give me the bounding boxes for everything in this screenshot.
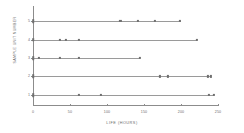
x-tick-label: 50: [68, 110, 72, 114]
data-point-marker: [137, 20, 139, 22]
series-start-marker: [32, 19, 34, 23]
x-tick-minor: [100, 105, 101, 106]
x-tick-major: [144, 104, 145, 106]
x-tick-label: 200: [178, 110, 185, 114]
data-point-marker: [59, 57, 61, 59]
x-axis-label: LIFE (HOURS): [0, 121, 244, 125]
data-point-marker: [212, 94, 214, 96]
x-tick-minor: [114, 105, 115, 106]
x-tick-minor: [174, 105, 175, 106]
y-axis-label: SAMPLE UNIT NUMBER: [13, 0, 17, 85]
series-line: [33, 76, 211, 77]
data-point-marker: [100, 94, 102, 96]
y-tick-label: 5: [25, 19, 30, 23]
y-tick-label: 1: [25, 93, 30, 97]
data-point-marker: [159, 75, 161, 77]
x-tick-minor: [85, 105, 86, 106]
x-tick-major: [107, 104, 108, 106]
data-point-marker: [208, 94, 210, 96]
x-tick-major: [33, 104, 34, 106]
series-line: [33, 95, 214, 96]
data-point-marker: [59, 38, 61, 40]
data-point-marker: [167, 75, 169, 77]
y-tick-label: 4: [25, 38, 30, 42]
y-tick-label: 3: [25, 56, 30, 60]
x-tick-minor: [137, 105, 138, 106]
x-tick-minor: [92, 105, 93, 106]
x-tick-minor: [196, 105, 197, 106]
x-tick-minor: [151, 105, 152, 106]
data-point-marker: [210, 75, 212, 77]
data-point-marker: [38, 57, 40, 59]
x-tick-label: 250: [215, 110, 222, 114]
x-tick-minor: [122, 105, 123, 106]
x-tick-minor: [211, 105, 212, 106]
series-start-marker: [32, 75, 34, 79]
x-tick-label: 150: [141, 110, 148, 114]
x-tick-major: [181, 104, 182, 106]
plot-area: 050100150200250 12345: [33, 10, 218, 106]
data-point-marker: [154, 20, 156, 22]
x-tick-minor: [77, 105, 78, 106]
data-point-marker: [78, 57, 80, 59]
data-point-marker: [196, 38, 198, 40]
x-tick-major: [70, 104, 71, 106]
x-tick-minor: [40, 105, 41, 106]
data-point-marker: [78, 94, 80, 96]
x-tick-minor: [63, 105, 64, 106]
data-point-marker: [139, 57, 141, 59]
data-point-marker: [64, 38, 66, 40]
x-tick-label: 100: [104, 110, 111, 114]
series-line: [33, 58, 140, 59]
x-tick-minor: [159, 105, 160, 106]
x-tick-minor: [55, 105, 56, 106]
x-axis-line: [33, 105, 218, 106]
data-point-marker: [78, 38, 80, 40]
chart-figure: SAMPLE UNIT NUMBER 050100150200250 12345…: [0, 0, 244, 133]
series-start-marker: [32, 56, 34, 60]
series-start-marker: [32, 93, 34, 97]
x-tick-minor: [188, 105, 189, 106]
x-tick-major: [218, 104, 219, 106]
data-point-marker: [178, 20, 180, 22]
x-tick-minor: [166, 105, 167, 106]
data-point-marker: [119, 20, 121, 22]
x-tick-minor: [129, 105, 130, 106]
series-start-marker: [32, 38, 34, 42]
series-line: [33, 21, 181, 22]
x-tick-minor: [48, 105, 49, 106]
x-tick-minor: [203, 105, 204, 106]
x-tick-label: 0: [32, 110, 34, 114]
y-tick-label: 2: [25, 74, 30, 78]
data-point-marker: [207, 75, 209, 77]
